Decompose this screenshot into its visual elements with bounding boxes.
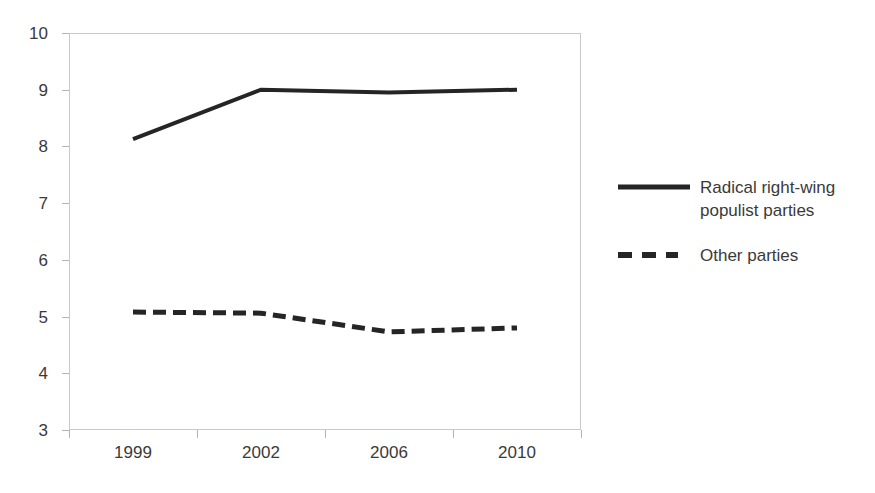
y-tick-mark [62,317,69,318]
series-line-other-parties [133,312,517,332]
series-canvas [69,33,581,430]
solid-line-swatch [618,176,690,198]
x-tick-mark [581,430,582,438]
x-tick-label-2002: 2002 [197,443,325,463]
x-tick-mark [69,430,70,438]
dashed-line-swatch [618,244,690,266]
y-tick-label: 8 [0,138,48,155]
y-tick-label: 5 [0,309,48,326]
plot-area [69,33,581,430]
x-tick-mark [197,430,198,438]
y-tick-mark [62,33,69,34]
legend: Radical right-wing populist parties Othe… [618,176,870,289]
y-axis: 10 9 8 7 6 5 4 3 [0,0,62,493]
y-tick-mark [62,146,69,147]
legend-entry-other-parties: Other parties [618,244,870,267]
legend-label-radical-right-wing: Radical right-wing populist parties [700,176,868,222]
legend-entry-radical-right-wing: Radical right-wing populist parties [618,176,870,222]
legend-label-other-parties: Other parties [700,244,798,267]
series-line-radical-right-wing [133,90,517,139]
y-tick-mark [62,430,69,431]
y-tick-label: 3 [0,422,48,439]
x-tick-label-2006: 2006 [325,443,453,463]
line-chart-figure: 10 9 8 7 6 5 4 3 1999 2002 2006 2010 [0,0,875,493]
y-tick-label: 10 [0,25,48,42]
x-tick-label-2010: 2010 [453,443,581,463]
y-tick-label: 4 [0,365,48,382]
y-tick-label: 7 [0,195,48,212]
y-tick-label: 9 [0,82,48,99]
y-tick-label: 6 [0,252,48,269]
x-tick-mark [453,430,454,438]
y-tick-mark [62,90,69,91]
y-tick-mark [62,203,69,204]
y-tick-mark [62,373,69,374]
y-tick-mark [62,260,69,261]
x-tick-mark [325,430,326,438]
x-tick-label-1999: 1999 [69,443,197,463]
